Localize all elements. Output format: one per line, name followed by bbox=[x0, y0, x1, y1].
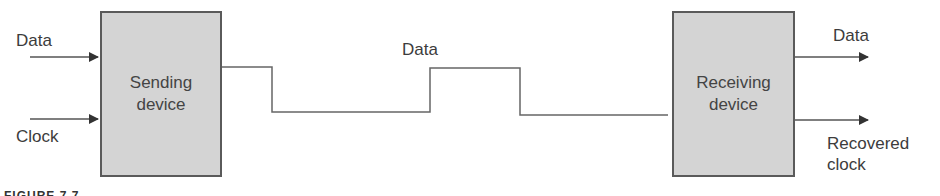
recovered-clock-output-label: Recovered clock bbox=[827, 133, 909, 175]
data-input-label: Data bbox=[16, 31, 52, 50]
data-output-label: Data bbox=[833, 26, 869, 45]
data-waveform bbox=[222, 67, 668, 115]
recovered-clock-line1: Recovered bbox=[827, 133, 909, 154]
receiving-device-box: Receiving device bbox=[672, 11, 795, 177]
channel-data-label: Data bbox=[402, 40, 438, 59]
sending-device-label-line1: Sending bbox=[130, 72, 192, 94]
sending-device-label-line2: device bbox=[130, 94, 192, 116]
receiving-device-label-line1: Receiving bbox=[696, 72, 771, 94]
receiving-device-label-line2: device bbox=[696, 94, 771, 116]
sending-device-box: Sending device bbox=[100, 11, 222, 177]
recovered-clock-line2: clock bbox=[827, 154, 909, 175]
clock-input-label: Clock bbox=[16, 127, 59, 146]
figure-caption: FIGURE 7.7 bbox=[4, 189, 79, 196]
